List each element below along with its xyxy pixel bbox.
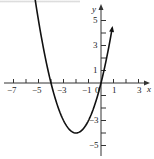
x-axis-label: x: [147, 85, 151, 94]
y-axis-label: y: [92, 5, 96, 14]
x-tick-label: 1: [112, 86, 117, 95]
x-tick-label: 0: [95, 86, 100, 95]
y-tick-label: 3: [93, 41, 98, 50]
plot-area: [0, 0, 154, 159]
x-tick-label: 3: [137, 86, 142, 95]
x-tick-label: −3: [57, 86, 67, 95]
x-ticks: [14, 79, 139, 83]
y-tick-label: −3: [89, 116, 99, 125]
y-axis-arrow-icon: [99, 4, 104, 10]
x-tick-label: −1: [82, 86, 92, 95]
x-tick-label: −5: [32, 86, 42, 95]
y-tick-label: 5: [93, 16, 98, 25]
y-tick-label: −5: [89, 141, 99, 150]
y-tick-label: 1: [93, 66, 98, 75]
parabola-curve: [27, 0, 112, 133]
curve-arrow-right-icon: [109, 26, 114, 32]
x-tick-label: −7: [7, 86, 17, 95]
